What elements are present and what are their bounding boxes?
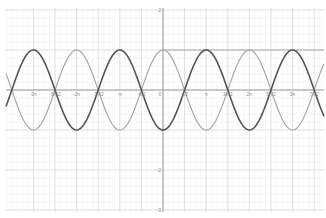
- svg-text:-π/2: -π/2: [137, 92, 146, 97]
- tick-labels: -3π-5π/2-2π-3π/2-π-π/20π/2π3π/22π5π/23π7…: [30, 8, 320, 213]
- svg-text:π: π: [205, 92, 208, 97]
- minor-grid: [6, 8, 324, 212]
- svg-text:-3π/2: -3π/2: [93, 92, 104, 97]
- svg-text:5π/2: 5π/2: [266, 92, 276, 97]
- svg-text:3π/2: 3π/2: [223, 92, 233, 97]
- svg-text:0: 0: [159, 92, 162, 97]
- svg-text:-3π: -3π: [30, 92, 37, 97]
- svg-text:3π: 3π: [290, 92, 296, 97]
- svg-text:2: 2: [158, 8, 161, 13]
- svg-text:2π: 2π: [247, 92, 253, 97]
- svg-text:-2π: -2π: [73, 92, 80, 97]
- svg-text:-3: -3: [157, 208, 161, 213]
- cosine-chart: -3π-5π/2-2π-3π/2-π-π/20π/2π3π/22π5π/23π7…: [0, 0, 326, 218]
- svg-text:-5π/2: -5π/2: [50, 92, 61, 97]
- svg-text:-2: -2: [157, 168, 161, 173]
- svg-text:-π: -π: [117, 92, 122, 97]
- svg-text:7π/2: 7π/2: [310, 92, 320, 97]
- svg-text:π/2: π/2: [181, 92, 188, 97]
